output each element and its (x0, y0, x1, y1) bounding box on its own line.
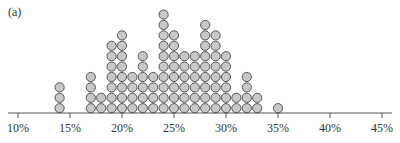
data-dot (159, 104, 168, 113)
data-dot (55, 104, 64, 113)
x-tick-label: 45% (371, 121, 393, 135)
data-dot (190, 93, 199, 102)
data-dot (117, 31, 126, 40)
data-dot (221, 93, 230, 102)
data-dot (242, 104, 251, 113)
data-dot (117, 83, 126, 92)
data-dot (97, 93, 106, 102)
data-dot (117, 62, 126, 71)
data-dot (232, 93, 241, 102)
data-dot (273, 104, 282, 113)
data-dot (190, 104, 199, 113)
data-dot (180, 72, 189, 81)
x-tick-label: 20% (111, 121, 133, 135)
data-dot (138, 52, 147, 61)
data-dot (159, 83, 168, 92)
data-dot (107, 83, 116, 92)
data-dot (149, 93, 158, 102)
data-dot (211, 31, 220, 40)
data-dot (242, 72, 251, 81)
data-dot (242, 83, 251, 92)
data-dot (201, 104, 210, 113)
data-dot (86, 83, 95, 92)
data-dot (169, 62, 178, 71)
data-dot (117, 93, 126, 102)
data-dot (138, 93, 147, 102)
data-dot (190, 72, 199, 81)
data-dot (221, 72, 230, 81)
data-dot (201, 62, 210, 71)
data-dot (159, 10, 168, 19)
data-dot (169, 52, 178, 61)
data-dot (169, 41, 178, 50)
data-dot (201, 41, 210, 50)
data-dot (107, 72, 116, 81)
data-dot (190, 52, 199, 61)
data-dot (190, 62, 199, 71)
data-dot (201, 93, 210, 102)
x-tick-label: 35% (267, 121, 289, 135)
data-dot (211, 104, 220, 113)
data-dot (107, 93, 116, 102)
data-dot (117, 72, 126, 81)
data-dot (232, 104, 241, 113)
x-tick-label: 40% (319, 121, 341, 135)
x-tick-label: 10% (7, 121, 29, 135)
data-dot (253, 104, 262, 113)
data-dot (55, 93, 64, 102)
data-dot (86, 104, 95, 113)
dot-plot: 10%15%20%25%30%35%40%45% (0, 0, 400, 143)
data-dot (138, 72, 147, 81)
data-dot (211, 52, 220, 61)
data-dot (159, 52, 168, 61)
data-dot (221, 104, 230, 113)
data-dot (169, 31, 178, 40)
data-dot (242, 93, 251, 102)
data-dot (180, 62, 189, 71)
data-dot (55, 83, 64, 92)
data-dot (159, 62, 168, 71)
data-dot (190, 83, 199, 92)
data-dot (149, 104, 158, 113)
data-dot (169, 104, 178, 113)
data-dot (211, 83, 220, 92)
data-dot (117, 104, 126, 113)
data-dot (211, 62, 220, 71)
data-dot (117, 41, 126, 50)
data-dot (128, 83, 137, 92)
data-dot (169, 93, 178, 102)
data-dot (107, 41, 116, 50)
data-dot (107, 62, 116, 71)
data-dot (201, 52, 210, 61)
data-dot (201, 20, 210, 29)
data-dot (169, 83, 178, 92)
data-dot (180, 83, 189, 92)
data-dot (86, 93, 95, 102)
data-dot (201, 31, 210, 40)
data-dot (159, 31, 168, 40)
data-dot (97, 104, 106, 113)
x-tick-label: 15% (59, 121, 81, 135)
data-dot (138, 83, 147, 92)
data-dot (180, 93, 189, 102)
data-dot (128, 104, 137, 113)
data-dot (221, 52, 230, 61)
data-dot (138, 62, 147, 71)
data-dot (211, 72, 220, 81)
data-dot (180, 104, 189, 113)
data-dot (253, 93, 262, 102)
data-dot (149, 72, 158, 81)
data-dot (107, 52, 116, 61)
data-dot (221, 83, 230, 92)
x-tick-label: 25% (163, 121, 185, 135)
data-dot (138, 104, 147, 113)
data-dot (128, 72, 137, 81)
data-dot (211, 93, 220, 102)
data-dot (117, 52, 126, 61)
data-dot (201, 72, 210, 81)
x-tick-label: 30% (215, 121, 237, 135)
data-dot (159, 20, 168, 29)
data-dot (149, 83, 158, 92)
x-axis: 10%15%20%25%30%35%40%45% (7, 113, 393, 135)
data-dot (107, 104, 116, 113)
